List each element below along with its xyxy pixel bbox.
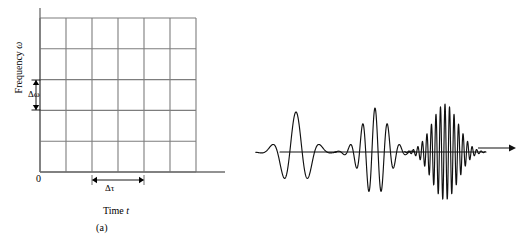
wavelet-group [256,104,486,199]
delta-omega-arrow-head [33,105,39,110]
delta-tau-arrow-head [92,177,97,183]
y-axis-label-symbol: ω [13,42,24,49]
grid-lines [40,18,196,172]
panel-a-time-frequency-grid: Frequency ω Time t 0 Δτ Δω (a) [0,0,264,240]
x-axis-label: Time t [103,205,129,216]
wavelet-svg [236,0,527,240]
delta-tau-label: Δτ [105,183,114,193]
x-axis-label-text: Time [103,205,124,216]
wavelet-mid-frequency [335,108,415,191]
dimension-markers [32,80,145,185]
caption-a: (a) [96,222,108,233]
delta-tau-arrow-head [139,177,144,183]
x-axis-label-symbol: t [126,205,129,216]
grid-svg [0,0,264,240]
wavelet-low-frequency [256,112,336,178]
time-arrow [478,145,516,152]
delta-omega-label: Δω [28,89,40,99]
time-arrow-head [509,145,516,152]
axis-lines [40,8,225,172]
y-axis-label: Frequency ω [13,20,24,116]
delta-omega-arrow-head [33,80,39,85]
origin-label: 0 [36,173,41,184]
panel-b-wavelets: Time (b) [236,0,527,240]
y-axis-label-text: Frequency [13,51,24,93]
figure-root: Frequency ω Time t 0 Δτ Δω (a) Time (b) [0,0,527,240]
